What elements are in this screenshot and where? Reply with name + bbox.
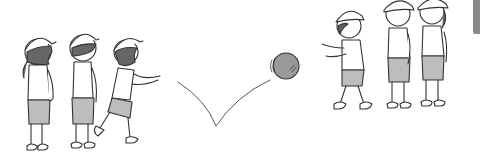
ball (271, 53, 300, 79)
ball-trajectory (178, 80, 270, 126)
scene-svg (0, 0, 480, 156)
child-left-3 (94, 38, 160, 143)
child-right-2 (384, 1, 414, 108)
illustration (0, 0, 480, 156)
edge-tab (473, 0, 480, 34)
child-right-3 (418, 0, 448, 106)
child-right-1 (322, 11, 372, 109)
child-left-1 (23, 38, 56, 150)
